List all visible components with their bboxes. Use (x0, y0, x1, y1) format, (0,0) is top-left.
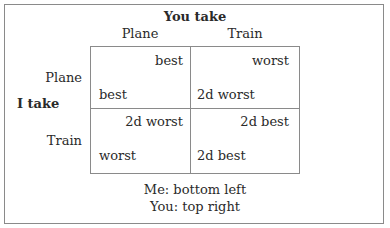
column-header-title: You take (90, 9, 300, 24)
cell-train-train-you: 2d best (195, 114, 289, 129)
column-label-train: Train (190, 26, 300, 41)
column-label-plane: Plane (90, 26, 190, 41)
cell-plane-plane-you: best (95, 53, 183, 68)
matrix-horizontal-divider (90, 108, 300, 109)
cell-train-train-me: 2d best (197, 148, 246, 163)
matrix-vertical-divider (190, 46, 191, 174)
legend-me: Me: bottom left (90, 182, 300, 197)
cell-train-plane-me: worst (99, 148, 136, 163)
cell-plane-plane-me: best (99, 87, 127, 102)
cell-plane-train-you: worst (195, 53, 289, 68)
row-label-plane: Plane (30, 70, 82, 85)
legend-you: You: top right (90, 199, 300, 214)
row-label-train: Train (30, 133, 82, 148)
cell-train-plane-you: 2d worst (95, 114, 183, 129)
row-header-title: I take (17, 96, 59, 111)
cell-plane-train-me: 2d worst (197, 87, 255, 102)
